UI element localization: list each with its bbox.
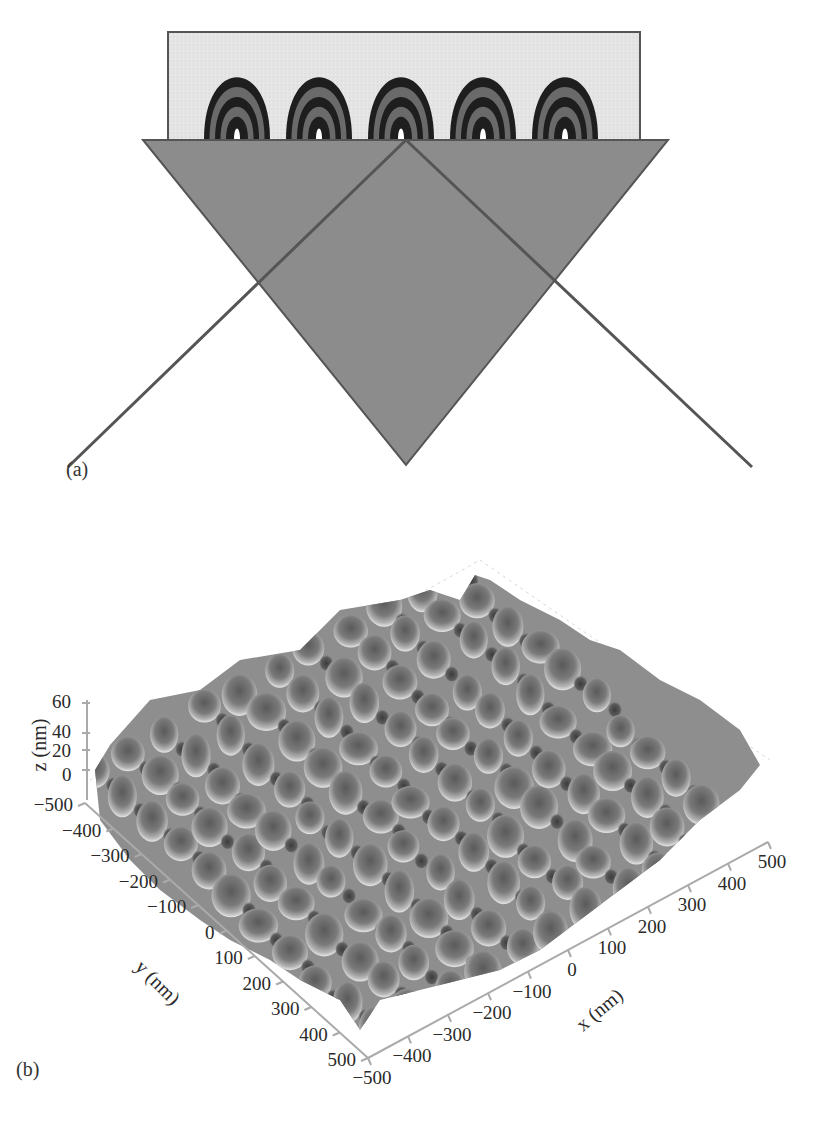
panel-a: (a) [0,0,840,500]
x-tick-label: 300 [678,894,707,915]
z-tick-20: 20 [52,740,71,761]
y-tick-label: −100 [147,896,186,917]
y-tick-label: −500 [34,794,73,815]
y-tick-label: 100 [214,947,243,968]
y-axis-title: y (nm) [130,955,184,1009]
prism [143,140,668,465]
x-tick-label: 500 [758,851,787,872]
x-axis-title: x (nm) [571,984,627,1036]
z-tick-60: 60 [52,691,71,712]
x-tick-label: −200 [472,1002,511,1023]
z-tick-40: 40 [52,721,71,742]
y-tick-label: 200 [243,973,272,994]
z-axis-title: z (nm) [28,719,51,772]
z-axis: 60 40 20 0 z (nm) [28,691,90,800]
prism-diagram [0,0,840,500]
surface-plot: 60 40 20 0 z (nm) −500−400−300−200−10001… [0,520,840,1120]
surface-topography [80,548,780,1050]
y-tick-label: −200 [119,871,158,892]
z-tick-0: 0 [62,764,72,785]
x-tick-label: −500 [352,1067,391,1088]
panel-a-label: (a) [66,458,88,481]
y-tick-label: 0 [205,922,215,943]
x-tick-label: 100 [598,937,627,958]
x-tick-label: −100 [512,981,551,1002]
y-tick-label: 400 [299,1024,328,1045]
x-tick-label: 0 [567,959,577,980]
y-tick-label: −300 [90,845,129,866]
x-tick-label: 200 [638,916,667,937]
panel-b: 60 40 20 0 z (nm) −500−400−300−200−10001… [0,520,840,1120]
x-tick-label: 400 [718,873,747,894]
y-tick-label: 300 [271,998,300,1019]
x-tick-label: −400 [392,1045,431,1066]
panel-b-label: (b) [16,1058,39,1081]
y-tick-label: −400 [62,820,101,841]
x-tick-label: −300 [432,1024,471,1045]
